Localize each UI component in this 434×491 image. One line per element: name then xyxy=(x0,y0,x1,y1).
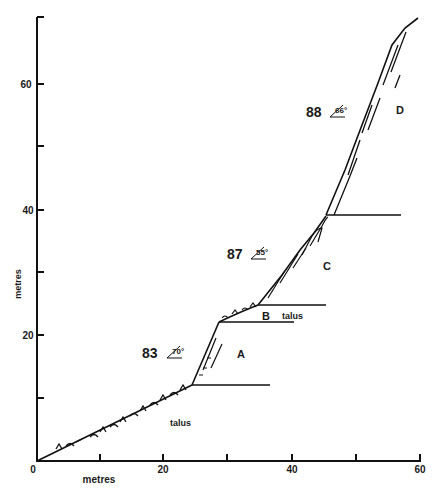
dip-88: 66° xyxy=(335,106,347,115)
dip-87: 55° xyxy=(256,248,268,257)
y-tick-40: 40 xyxy=(22,205,34,216)
station-83: 83 xyxy=(142,345,158,361)
station-87: 87 xyxy=(227,246,243,262)
annotation-83: 83 70° xyxy=(142,345,184,361)
lower-talus-slope xyxy=(37,385,192,461)
unit-b-label: B xyxy=(262,310,270,322)
annotation-88: 88 66° xyxy=(306,104,347,120)
x-tick-20: 20 xyxy=(157,464,169,475)
x-tick-60: 60 xyxy=(414,464,426,475)
profile-diagram: 60 40 20 0 20 40 60 metres metres xyxy=(0,0,434,491)
origin-label: 0 xyxy=(30,464,36,475)
dip-83: 70° xyxy=(172,347,184,356)
unit-c-label: C xyxy=(323,260,331,272)
y-tick-60: 60 xyxy=(20,79,32,90)
talus-lower-label: talus xyxy=(170,418,191,428)
annotation-87: 87 55° xyxy=(227,246,268,262)
x-axis-label: metres xyxy=(83,474,116,485)
y-tick-20: 20 xyxy=(22,330,34,341)
y-axis-label: metres xyxy=(13,269,23,299)
unit-a-label: A xyxy=(237,348,245,360)
talus-upper-label: talus xyxy=(282,311,303,321)
station-88: 88 xyxy=(306,104,322,120)
upper-talus-slope xyxy=(219,303,326,322)
x-tick-40: 40 xyxy=(286,464,298,475)
unit-d-label: D xyxy=(396,104,404,116)
axes xyxy=(36,17,421,462)
